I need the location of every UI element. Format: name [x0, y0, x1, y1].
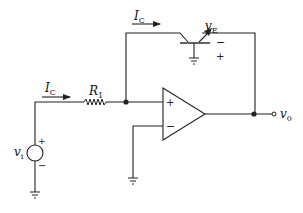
ic-input-label: IC — [44, 81, 56, 97]
ic-top-label: IC — [133, 9, 145, 25]
junction-node-input — [123, 99, 128, 104]
circuit-diagram: IC vE − + R1 IC + − v0 + − vi — [0, 0, 303, 213]
junction-node-output — [251, 111, 256, 116]
transistor-ground-icon — [189, 58, 199, 64]
source-ground-icon — [30, 192, 40, 198]
ve-minus-sign: − — [216, 36, 225, 49]
source-minus-sign: − — [38, 160, 46, 171]
vi-label: vi — [14, 145, 24, 161]
ve-plus-sign: + — [216, 51, 224, 62]
vo-label: v0 — [280, 107, 292, 123]
output-terminal — [272, 112, 276, 116]
opamp-minus-sign: − — [166, 120, 175, 133]
r1-label: R1 — [88, 84, 103, 100]
voltage-source-vi — [27, 145, 43, 161]
input-wire — [35, 102, 163, 145]
opamp-ground-icon — [128, 178, 138, 184]
source-plus-sign: + — [38, 136, 46, 146]
opamp-plus-sign: + — [166, 97, 174, 108]
inverting-input-wire — [133, 126, 163, 178]
ve-label: vE — [205, 19, 218, 35]
